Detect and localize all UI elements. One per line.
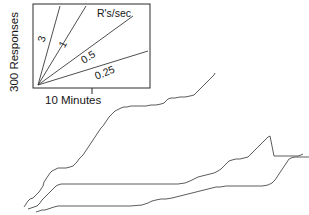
x-axis-label: 10 Minutes bbox=[45, 94, 102, 106]
figure-canvas: 300 Responses 10 Minutes R's/sec 310.50.… bbox=[0, 0, 309, 215]
record-2 bbox=[28, 136, 303, 209]
y-axis-label: 300 Responses bbox=[8, 12, 20, 92]
legend-title: R's/sec bbox=[97, 7, 131, 19]
slope-line-3 bbox=[38, 6, 60, 85]
inset-legend: R's/sec 310.50.25 bbox=[33, 4, 150, 94]
slope-label-0-25: 0.25 bbox=[93, 63, 117, 82]
record-3 bbox=[36, 157, 309, 212]
cumulative-record-figure: 300 Responses 10 Minutes R's/sec 310.50.… bbox=[0, 0, 309, 215]
slope-label-3: 3 bbox=[35, 34, 48, 43]
slope-label-0-5: 0.5 bbox=[79, 48, 98, 66]
slope-label-1: 1 bbox=[56, 38, 69, 49]
